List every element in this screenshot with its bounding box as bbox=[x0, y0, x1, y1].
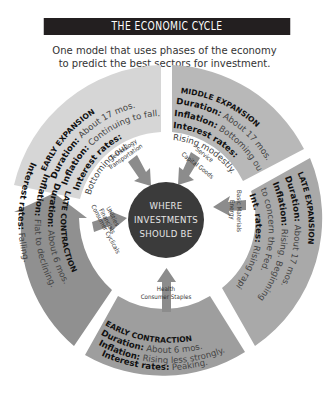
sector-consumer-staples: Consumer Staples bbox=[141, 293, 192, 301]
arrow-technology-icon bbox=[128, 155, 151, 186]
center-line-2: INVESTMENTS bbox=[134, 214, 198, 225]
center-line-3: SHOULD BE bbox=[140, 228, 193, 239]
sector-basic-materials: Basic Materials bbox=[236, 190, 243, 232]
center-line-1: WHERE bbox=[149, 200, 182, 211]
sector-health: Health bbox=[157, 285, 176, 292]
economic-cycle-diagram: WHERE INVESTMENTS SHOULD BE EARLY EXPANS… bbox=[0, 0, 329, 399]
sector-energy: Energy bbox=[228, 200, 236, 220]
